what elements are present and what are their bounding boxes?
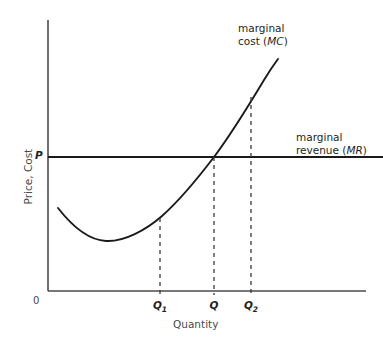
mr-label-line2-suffix: ) <box>363 144 367 156</box>
mr-label-abbrev: MR <box>346 144 362 156</box>
x-tick-q2-sub: 2 <box>253 305 258 314</box>
mc-label-line2-prefix: cost ( <box>238 35 267 47</box>
x-tick-q: Q <box>210 299 219 314</box>
mr-label-line1: marginal <box>296 131 342 143</box>
mc-label-line2-suffix: ) <box>284 35 288 47</box>
price-axis-marker: P <box>35 149 43 162</box>
mc-label-line1: marginal <box>238 22 284 34</box>
x-tick-q2-letter: Q <box>244 299 253 311</box>
x-tick-q1-letter: Q <box>153 299 162 311</box>
x-tick-q1-sub: 1 <box>162 305 167 314</box>
y-axis-label: Price, Cost <box>22 132 35 222</box>
origin-label: 0 <box>33 295 39 308</box>
x-tick-q1: Q1 <box>153 299 167 314</box>
economics-chart-figure: marginal cost (MC) marginal revenue (MR)… <box>0 0 383 345</box>
marginal-revenue-label: marginal revenue (MR) <box>296 131 367 157</box>
x-tick-q-letter: Q <box>210 299 219 311</box>
chart-plot-area <box>0 0 383 345</box>
marginal-cost-curve <box>58 59 278 241</box>
marginal-cost-label: marginal cost (MC) <box>238 22 288 48</box>
mr-label-line2-prefix: revenue ( <box>296 144 346 156</box>
x-axis-label: Quantity <box>173 318 218 331</box>
x-tick-q2: Q2 <box>244 299 258 314</box>
mc-label-abbrev: MC <box>267 35 283 47</box>
